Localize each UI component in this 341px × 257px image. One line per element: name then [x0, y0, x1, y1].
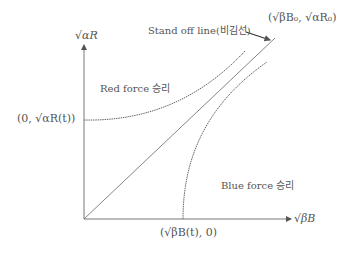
x-axis-label: √βB: [294, 213, 315, 224]
end-point-label: (√βB₀, √αR₀): [268, 12, 337, 23]
standoff-line-label: Stand off line(비김선): [148, 26, 251, 36]
phase-diagram-canvas: [0, 0, 341, 257]
blue-force-region-label: Blue force 승리: [221, 181, 294, 191]
y-intercept-label: (0, √αR(t)): [17, 113, 75, 124]
x-intercept-label: (√βB(t), 0): [160, 227, 217, 238]
standoff-line: [84, 38, 275, 219]
red-force-region-label: Red force 승리: [100, 84, 170, 94]
y-axis-label: √αR: [75, 30, 98, 41]
